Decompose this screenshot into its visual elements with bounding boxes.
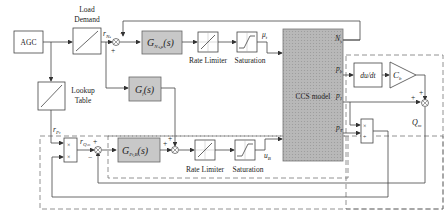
sum-junction-2: + + — [163, 134, 179, 154]
sum3-minus-sign: − — [88, 153, 92, 162]
rate-limiter-top: Rate Limiter — [189, 32, 228, 65]
derivative-block: du/dt — [354, 63, 382, 87]
g-pt-controller-block: GPₜ,B(s) — [118, 138, 160, 162]
sum4-plus-top: + — [419, 88, 423, 97]
derivative-label: du/dt — [360, 71, 376, 80]
signal-r-q: rQₘ — [80, 137, 91, 147]
sum1-minus-sign: − — [120, 29, 124, 38]
divider-multiply-sign: × — [363, 123, 366, 129]
saturation-top-label: Saturation — [235, 56, 266, 65]
divider-block: × ÷ — [361, 119, 373, 143]
g-ns-controller-block: GNₛ,μ(s) — [142, 31, 182, 54]
sum4-plus-left: + — [411, 93, 415, 102]
ccs-model-block: CCS model — [283, 29, 343, 161]
sum-junction-qm: + + — [411, 88, 429, 107]
multiplier-block: × × — [64, 138, 77, 162]
ccs-control-block-diagram: AGC Load Demand Lookup Table rNₛ − + GNₛ… — [0, 0, 445, 218]
g-f-label: Gf(s) — [135, 84, 155, 96]
load-demand-block: Load Demand — [73, 5, 101, 54]
signal-mu-t: μt — [262, 30, 268, 40]
signal-r-pt: rPₜ — [53, 125, 61, 135]
multiplier-sign-top: × — [67, 142, 70, 148]
gain-cb-block: Cb — [390, 62, 416, 88]
g-f-feedforward-block: Gf(s) — [129, 77, 161, 101]
multiplier-sign-bottom: × — [67, 154, 70, 160]
agc-label: AGC — [21, 38, 37, 47]
lookup-table-label-1: Lookup — [71, 86, 95, 95]
lookup-table-label-2: Table — [75, 96, 92, 105]
signal-r-ns: rNₛ — [103, 29, 111, 39]
sum-junction-3: + − — [88, 137, 102, 162]
signal-q-m: Qm — [412, 118, 422, 128]
rate-limiter-bottom: Rate Limiter — [186, 140, 225, 174]
sum3-plus-sign: + — [93, 137, 97, 146]
signal-u-b: uB — [264, 151, 271, 161]
sum1-plus-sign: + — [111, 46, 115, 55]
load-demand-label-1: Load — [79, 5, 95, 14]
lookup-table-block: Lookup Table — [38, 82, 95, 110]
saturation-bottom: Saturation — [233, 140, 264, 174]
load-demand-label-2: Demand — [74, 15, 100, 24]
sum2-plus-top: + — [168, 134, 172, 143]
ccs-model-label: CCS model — [296, 92, 331, 101]
rate-limiter-bottom-label: Rate Limiter — [186, 165, 225, 174]
sum2-plus-left: + — [163, 139, 167, 148]
rate-limiter-top-label: Rate Limiter — [189, 56, 228, 65]
saturation-bottom-label: Saturation — [233, 165, 264, 174]
saturation-top: Saturation — [235, 32, 266, 65]
agc-block: AGC — [14, 31, 43, 53]
